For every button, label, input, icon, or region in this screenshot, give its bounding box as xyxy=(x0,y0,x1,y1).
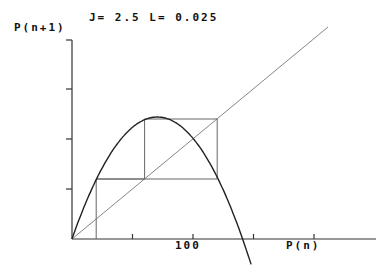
cobweb-path xyxy=(96,119,217,239)
axes xyxy=(66,40,376,239)
identity-line xyxy=(72,27,328,239)
chart-canvas xyxy=(0,0,389,274)
x-ticks xyxy=(133,234,315,239)
map-curve xyxy=(72,117,251,264)
y-ticks xyxy=(66,89,72,189)
